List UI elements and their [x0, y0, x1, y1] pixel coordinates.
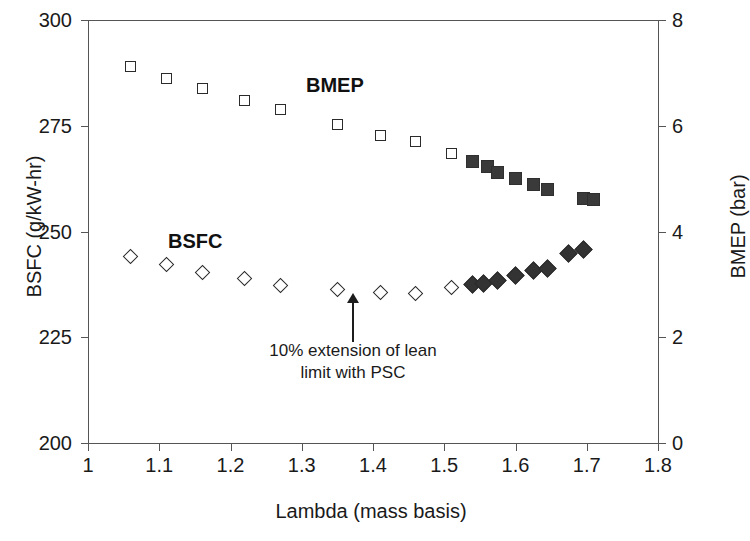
data-point-open-square — [332, 119, 343, 130]
y-axis-left-tick-label: 300 — [10, 10, 72, 30]
data-point-filled-square — [491, 166, 504, 179]
x-axis-tick — [373, 443, 374, 451]
data-point-filled-diamond — [506, 267, 524, 285]
x-axis-tick — [444, 443, 445, 451]
data-point-filled-diamond — [538, 259, 556, 277]
data-point-open-diamond — [123, 249, 139, 265]
y-axis-right-tick — [658, 232, 666, 233]
data-point-open-diamond — [330, 282, 346, 298]
y-axis-left-title: BSFC (g/kW-hr) — [23, 97, 46, 357]
y-axis-right-tick — [658, 443, 666, 444]
data-point-open-diamond — [408, 286, 424, 302]
data-point-open-square — [239, 95, 250, 106]
data-point-open-square — [197, 83, 208, 94]
annotation-text: 10% extension of lean limit with PSC — [208, 340, 498, 384]
data-point-open-square — [161, 73, 172, 84]
data-point-open-diamond — [237, 270, 253, 286]
x-axis-tick — [302, 443, 303, 451]
y-axis-left-tick — [81, 232, 89, 233]
x-axis-title: Lambda (mass basis) — [181, 500, 561, 523]
data-point-open-square — [375, 130, 386, 141]
data-point-open-square — [446, 148, 457, 159]
series-label-bsfc: BSFC — [168, 230, 222, 253]
x-axis-tick-label: 1.2 — [201, 455, 261, 475]
data-point-filled-square — [466, 155, 479, 168]
data-point-open-square — [410, 136, 421, 147]
x-axis-tick-label: 1.1 — [129, 455, 189, 475]
data-point-open-diamond — [194, 265, 210, 281]
data-point-filled-square — [587, 193, 600, 206]
y-axis-right-tick-label: 8 — [672, 10, 683, 30]
data-point-filled-diamond — [574, 240, 592, 258]
y-axis-right-title: BMEP (bar) — [727, 97, 750, 357]
data-point-filled-diamond — [474, 274, 492, 292]
x-axis-tick — [658, 443, 659, 451]
y-axis-right-tick — [658, 126, 666, 127]
x-axis-tick — [587, 443, 588, 451]
y-axis-left-tick-label: 200 — [10, 433, 72, 453]
y-axis-right-tick-label: 0 — [672, 433, 683, 453]
data-point-open-diamond — [372, 285, 388, 301]
y-axis-right-tick-label: 2 — [672, 327, 683, 347]
data-point-filled-square — [509, 172, 522, 185]
x-axis-tick-label: 1.7 — [557, 455, 617, 475]
data-point-filled-square — [541, 183, 554, 196]
y-axis-right-tick-label: 4 — [672, 222, 683, 242]
x-axis-tick — [516, 443, 517, 451]
x-axis-tick — [231, 443, 232, 451]
data-point-open-square — [125, 61, 136, 72]
x-axis-tick-label: 1.6 — [486, 455, 546, 475]
axis-line-top — [88, 20, 659, 21]
annotation-line-1: 10% extension of lean — [208, 340, 498, 362]
y-axis-left-tick — [81, 126, 89, 127]
series-label-bmep: BMEP — [306, 74, 364, 97]
y-axis-right-tick — [658, 337, 666, 338]
y-axis-left-tick — [81, 20, 89, 21]
x-axis-tick-label: 1.3 — [272, 455, 332, 475]
data-point-open-diamond — [273, 277, 289, 293]
y-axis-right-tick-label: 6 — [672, 116, 683, 136]
x-axis-tick-label: 1.4 — [343, 455, 403, 475]
data-point-open-diamond — [159, 257, 175, 273]
annotation-line-2: limit with PSC — [208, 362, 498, 384]
data-point-open-diamond — [444, 280, 460, 296]
y-axis-right-tick — [658, 20, 666, 21]
x-axis-tick-label: 1.5 — [414, 455, 474, 475]
x-axis-tick-label: 1 — [58, 455, 118, 475]
x-axis-tick-label: 1.8 — [628, 455, 688, 475]
data-point-filled-diamond — [488, 272, 506, 290]
annotation-arrow-line — [352, 300, 354, 342]
y-axis-left-tick — [81, 337, 89, 338]
x-axis-tick — [159, 443, 160, 451]
data-point-open-square — [275, 104, 286, 115]
x-axis-tick — [88, 443, 89, 451]
data-point-filled-square — [527, 178, 540, 191]
